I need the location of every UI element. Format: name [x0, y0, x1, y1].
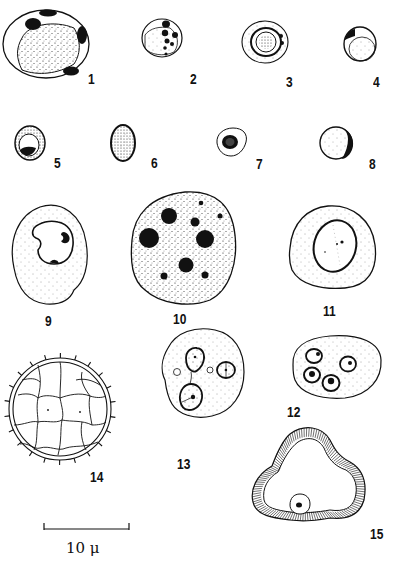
spine-mark [98, 443, 102, 446]
figure-label-13: 13 [177, 455, 190, 472]
figure-8-cell [320, 127, 353, 159]
figure-14-cell [5, 353, 116, 465]
figure-13-cell [162, 329, 244, 417]
figure-label-4: 4 [373, 73, 380, 90]
spine-mark [44, 458, 45, 463]
figure-2-cell [142, 19, 182, 57]
figure-label-6: 6 [151, 154, 158, 171]
figure-9-cell [12, 205, 87, 304]
scale-bar-label: 10 μ [66, 539, 100, 557]
figure-4-cell [344, 27, 376, 61]
figure-label-15: 15 [370, 525, 383, 542]
figure-12-cell [293, 336, 381, 399]
spine-mark [18, 372, 22, 375]
figure-11-cell [289, 206, 375, 289]
figure-label-12: 12 [287, 403, 300, 420]
spine-mark [9, 430, 14, 432]
spine-mark [45, 355, 46, 360]
spine-mark [74, 458, 75, 463]
figure-label-2: 2 [190, 70, 197, 87]
spine-mark [107, 386, 112, 388]
figure-label-8: 8 [369, 155, 376, 172]
figure-1-cell [3, 10, 89, 79]
figure-label-5: 5 [54, 154, 61, 171]
spine-mark [5, 401, 10, 402]
figure-10-cell [131, 192, 235, 304]
figure-6-cell [111, 125, 135, 161]
spine-mark [29, 452, 32, 456]
spine-mark [111, 401, 116, 402]
spine-mark [99, 373, 103, 376]
figure-label-1: 1 [88, 70, 95, 87]
spine-mark [75, 355, 76, 360]
spine-mark [110, 417, 115, 418]
figure-5-cell [15, 126, 45, 160]
figure-3-cell [242, 21, 288, 63]
figure-label-14: 14 [90, 468, 103, 485]
figure-15-cell [252, 428, 365, 521]
figure-label-11: 11 [323, 302, 336, 319]
spine-mark [88, 362, 91, 366]
spine-mark [9, 385, 14, 387]
illustration-plate [0, 0, 395, 563]
figure-label-9: 9 [45, 312, 52, 329]
figure-label-3: 3 [286, 73, 293, 90]
spine-mark [87, 452, 90, 456]
figure-7-cell [217, 128, 247, 156]
scale-bar [44, 523, 129, 530]
spine-mark [106, 431, 111, 433]
figure-label-7: 7 [256, 155, 263, 172]
figure-label-10: 10 [173, 310, 186, 327]
spine-mark [30, 362, 33, 366]
spine-mark [5, 416, 10, 417]
